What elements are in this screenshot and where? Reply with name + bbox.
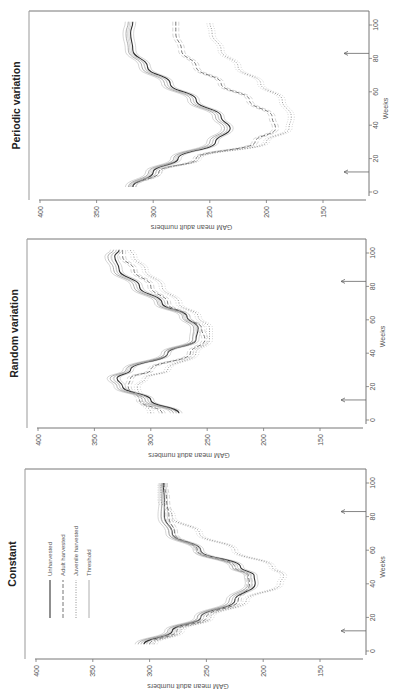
y-tick-label: 150 bbox=[320, 206, 327, 218]
y-tick-label: 200 bbox=[263, 206, 270, 218]
x-tick-label: 80 bbox=[369, 282, 376, 290]
y-tick-label: 400 bbox=[33, 665, 40, 677]
x-tick-label: 0 bbox=[372, 190, 379, 194]
y-tick-label: 300 bbox=[147, 434, 154, 446]
y-tick-label: 350 bbox=[89, 665, 96, 677]
y-tick-label: 150 bbox=[317, 665, 324, 677]
y-tick-label: 200 bbox=[260, 665, 267, 677]
chart-panel-constant: Constant150200250300350400GAM mean adult… bbox=[6, 469, 386, 690]
y-axis-label: GAM mean adult numbers bbox=[148, 452, 230, 459]
x-tick-label: 20 bbox=[369, 383, 376, 391]
x-tick-label: 80 bbox=[372, 54, 379, 62]
chart-panel-random-variation: Random variation150200250300350400GAM me… bbox=[8, 239, 386, 459]
legend-label: Threshold bbox=[86, 549, 92, 576]
y-tick-label: 200 bbox=[260, 434, 267, 446]
legend-label: Unharvested bbox=[47, 542, 53, 576]
y-axis-label: GAM mean adult numbers bbox=[150, 224, 232, 231]
y-tick-label: 300 bbox=[146, 665, 153, 677]
x-tick-label: 20 bbox=[369, 613, 376, 621]
x-tick-label: 100 bbox=[372, 19, 379, 31]
y-tick-label: 250 bbox=[203, 665, 210, 677]
x-tick-label: 100 bbox=[369, 247, 376, 259]
series-line-juvenile-harvested bbox=[154, 483, 284, 644]
series-line-unharvested bbox=[144, 483, 255, 644]
legend-label: Adult harvested bbox=[60, 534, 66, 576]
legend: UnharvestedAdult harvestedJuvenile harve… bbox=[47, 526, 92, 618]
y-tick-label: 150 bbox=[317, 434, 324, 446]
legend-label: Juvenile harvested bbox=[73, 526, 79, 576]
confidence-band bbox=[136, 22, 294, 187]
x-tick-label: 60 bbox=[369, 316, 376, 324]
y-axis-label: GAM mean adult numbers bbox=[147, 683, 229, 690]
x-tick-label: 60 bbox=[372, 88, 379, 96]
y-tick-label: 300 bbox=[150, 206, 157, 218]
y-tick-label: 250 bbox=[206, 206, 213, 218]
x-axis-label: Weeks bbox=[379, 556, 386, 578]
chart-title: Periodic variation bbox=[10, 61, 22, 149]
x-tick-label: 20 bbox=[372, 155, 379, 163]
x-tick-label: 40 bbox=[369, 349, 376, 357]
x-tick-label: 0 bbox=[369, 649, 376, 653]
y-tick-label: 400 bbox=[37, 206, 44, 218]
series-line-threshold bbox=[138, 483, 248, 644]
confidence-band bbox=[157, 483, 287, 644]
x-tick-label: 80 bbox=[369, 513, 376, 521]
confidence-band bbox=[134, 22, 234, 187]
y-tick-label: 400 bbox=[35, 434, 42, 446]
figure-canvas: Constant150200250300350400GAM mean adult… bbox=[0, 0, 393, 697]
x-axis-label: Weeks bbox=[382, 97, 389, 119]
confidence-band bbox=[135, 483, 245, 644]
chart-panel-periodic-variation: Periodic variation150200250300350400GAM … bbox=[10, 11, 389, 231]
confidence-band bbox=[118, 250, 202, 414]
x-tick-label: 0 bbox=[369, 418, 376, 422]
confidence-band bbox=[130, 22, 273, 187]
y-tick-label: 350 bbox=[91, 434, 98, 446]
series-line-adult-harvested bbox=[133, 22, 276, 187]
confidence-band bbox=[136, 22, 279, 187]
x-tick-label: 100 bbox=[369, 477, 376, 489]
chart-title: Constant bbox=[6, 541, 18, 587]
series-line-juvenile-harvested bbox=[133, 22, 291, 187]
y-tick-label: 250 bbox=[204, 434, 211, 446]
confidence-band bbox=[147, 483, 258, 644]
series-line-adult-harvested bbox=[123, 250, 205, 414]
x-axis-label: Weeks bbox=[379, 325, 386, 347]
x-tick-label: 60 bbox=[369, 546, 376, 554]
series-line-unharvested bbox=[131, 22, 231, 187]
y-tick-label: 350 bbox=[93, 206, 100, 218]
confidence-band bbox=[130, 22, 288, 187]
x-tick-label: 40 bbox=[369, 580, 376, 588]
chart-title: Random variation bbox=[8, 289, 20, 378]
x-tick-label: 40 bbox=[372, 121, 379, 129]
confidence-band bbox=[126, 250, 208, 414]
